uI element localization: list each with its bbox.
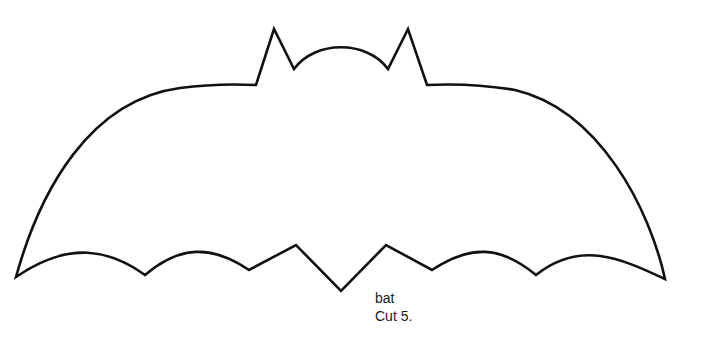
bat-template-figure	[0, 0, 707, 345]
bat-outline	[16, 29, 665, 291]
caption-instruction: Cut 5.	[375, 308, 412, 325]
caption-name: bat	[375, 290, 394, 307]
